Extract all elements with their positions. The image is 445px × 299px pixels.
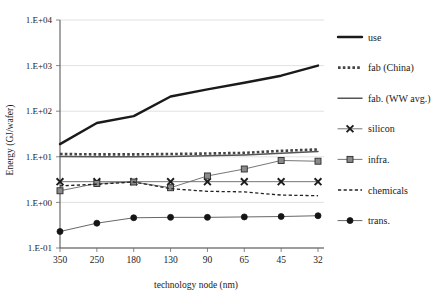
data-point-marker-trans — [57, 229, 63, 235]
x-tick-label-45: 45 — [276, 255, 286, 265]
legend-item-trans[interactable]: trans. — [335, 211, 439, 231]
x-tick-label-250: 250 — [90, 255, 105, 265]
data-point-marker-trans — [315, 213, 321, 219]
data-point-marker-infra — [94, 180, 100, 186]
data-point-marker-legend-trans — [347, 218, 353, 224]
y-tick-label-1.E+01: 1.E+01 — [26, 152, 52, 162]
legend-label-chemicals: chemicals — [368, 185, 408, 196]
data-point-marker-infra — [204, 173, 210, 179]
x-tick-label-130: 130 — [163, 255, 178, 265]
legend-label-infra: infra. — [368, 154, 389, 165]
y-tick-label-1.E+04: 1.E+04 — [26, 15, 53, 25]
data-point-marker-trans — [241, 214, 247, 220]
data-point-marker-infra — [57, 188, 63, 194]
data-point-marker-legend-infra — [347, 156, 353, 162]
data-point-marker-trans — [94, 220, 100, 226]
chart-container: 1.E+041.E+031.E+021.E+011.E+001.E-01 350… — [0, 0, 445, 299]
x-tick-label-32: 32 — [313, 255, 323, 265]
legend-item-infra[interactable]: infra. — [335, 149, 439, 169]
x-tick-label-350: 350 — [53, 255, 68, 265]
data-point-marker-infra — [278, 157, 284, 163]
data-point-marker-trans — [204, 214, 210, 220]
legend-label-fab-china: fab (China) — [368, 62, 414, 74]
legend-item-use[interactable]: use — [335, 27, 439, 47]
energy-per-wafer-log-line-chart: 1.E+041.E+031.E+021.E+011.E+001.E-01 350… — [0, 0, 445, 299]
x-tick-label-65: 65 — [240, 255, 250, 265]
legend-label-fab-ww: fab. (WW avg.) — [368, 93, 431, 105]
legend-label-trans: trans. — [368, 215, 390, 226]
data-point-marker-trans — [278, 214, 284, 220]
data-point-marker-trans — [168, 214, 174, 220]
legend-label-use: use — [368, 32, 382, 43]
data-point-marker-infra — [315, 158, 321, 164]
y-tick-label-1.E+02: 1.E+02 — [26, 106, 52, 116]
x-tick-label-90: 90 — [203, 255, 213, 265]
x-axis-title: technology node (nm) — [154, 280, 238, 291]
y-tick-label-1.E+00: 1.E+00 — [26, 198, 53, 208]
x-tick-label-180: 180 — [127, 255, 142, 265]
data-point-marker-infra — [241, 166, 247, 172]
y-tick-label-1.E-01: 1.E-01 — [28, 243, 52, 253]
legend-item-fab-ww[interactable]: fab. (WW avg.) — [335, 88, 439, 108]
legend-item-chemicals[interactable]: chemicals — [335, 180, 439, 200]
y-tick-label-1.E+03: 1.E+03 — [26, 61, 53, 71]
legend-item-silicon[interactable]: silicon — [335, 119, 439, 139]
data-point-marker-trans — [131, 215, 137, 221]
legend-label-silicon: silicon — [368, 123, 395, 134]
y-axis-title: Energy (GJ/wafer) — [5, 105, 16, 176]
legend-item-fab-china[interactable]: fab (China) — [335, 58, 439, 78]
